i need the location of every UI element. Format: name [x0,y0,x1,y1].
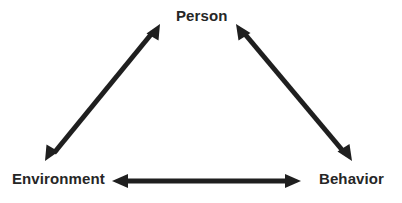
arrowhead-toward-behavior-horizontal [285,174,301,188]
node-label-behavior: Behavior [319,171,384,187]
node-label-environment: Environment [12,171,105,187]
arrow-shaft-person-behavior [244,33,343,151]
node-label-person: Person [176,8,227,24]
arrow-environment-behavior [112,174,301,188]
arrowhead-toward-environment [112,174,128,188]
arrow-shaft-environment-person [54,32,153,153]
diagram-canvas: Person Environment Behavior [0,0,402,203]
arrow-person-behavior [236,24,352,161]
arrow-environment-person [45,24,160,161]
